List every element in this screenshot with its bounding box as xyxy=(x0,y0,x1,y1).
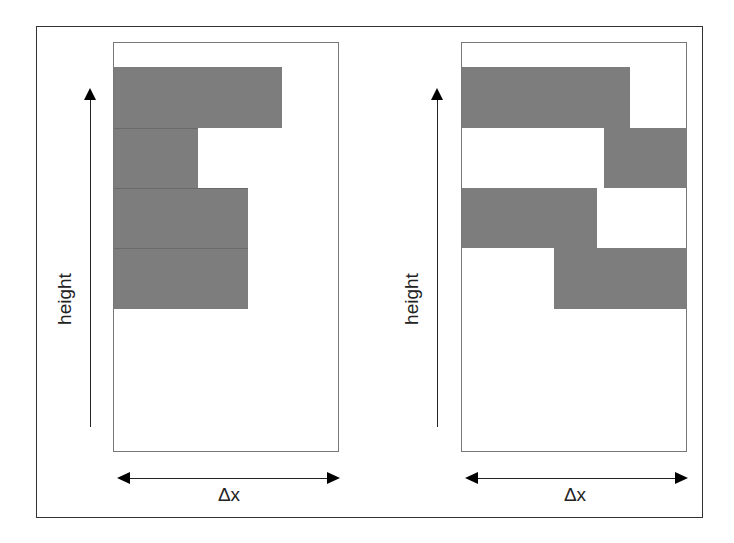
height-axis-label: height xyxy=(54,259,76,339)
bar-row-2 xyxy=(114,128,198,188)
bar-row-4 xyxy=(114,248,248,309)
bar-row-3 xyxy=(114,188,248,248)
right-panel xyxy=(461,42,687,452)
dx-axis-label: Δx xyxy=(545,484,605,506)
left-arrow-icon xyxy=(117,472,130,484)
dx-axis-line xyxy=(473,478,675,479)
dx-axis-label: Δx xyxy=(199,484,259,506)
up-arrow-icon xyxy=(84,88,96,100)
bar-row-2 xyxy=(604,128,687,188)
bar-row-1 xyxy=(462,67,630,128)
left-panel xyxy=(113,42,339,452)
bar-row-4 xyxy=(554,248,687,309)
bar-row-3 xyxy=(462,188,597,248)
dx-axis-line xyxy=(125,478,327,479)
height-axis-label: height xyxy=(401,259,423,339)
height-axis-line xyxy=(90,98,91,427)
left-arrow-icon xyxy=(465,472,478,484)
right-arrow-icon xyxy=(675,472,688,484)
height-axis-line xyxy=(437,98,438,427)
bar-row-1 xyxy=(114,67,282,128)
right-arrow-icon xyxy=(327,472,340,484)
up-arrow-icon xyxy=(431,88,443,100)
